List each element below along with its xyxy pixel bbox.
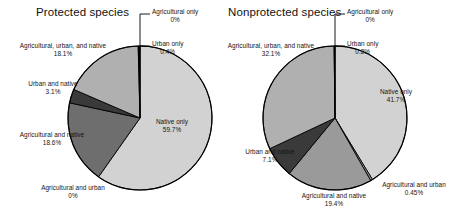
label-agricultural-urban-native-left: Agricultural, urban, and native 18.1% <box>2 42 124 57</box>
pie-chart-figure: Protected species Agricultural only 0% U… <box>0 0 464 221</box>
chart-title-nonprotected: Nonprotected species <box>228 6 341 18</box>
label-agricultural-and-urban-left: Agricultural and urban 0% <box>22 184 124 199</box>
label-agricultural-urban-native-right: Agricultural, urban, and native 32.1% <box>210 42 332 57</box>
label-agricultural-only-right: Agricultural only 0% <box>347 8 393 23</box>
label-urban-only-left: Urban only 0.4% <box>152 40 183 55</box>
label-native-only-right: Native only 41.7% <box>372 88 420 103</box>
label-urban-and-native-left: Urban and native 3.1% <box>10 80 96 95</box>
label-native-only-left: Native only 59.7% <box>148 118 196 133</box>
label-urban-only-right: Urban only 0.2% <box>347 40 378 55</box>
label-agricultural-and-urban-right: Agricultural and urban 0.45% <box>364 181 464 196</box>
chart-title-protected: Protected species <box>36 6 129 18</box>
label-urban-and-native-right: Urban and native 7.1% <box>227 148 313 163</box>
panel-nonprotected-species: Nonprotected species Agricultural only 0… <box>232 0 464 221</box>
panel-protected-species: Protected species Agricultural only 0% U… <box>0 0 232 221</box>
label-agricultural-and-native-left: Agricultural and native 18.6% <box>0 131 104 146</box>
label-agricultural-only-left: Agricultural only 0% <box>152 8 198 23</box>
